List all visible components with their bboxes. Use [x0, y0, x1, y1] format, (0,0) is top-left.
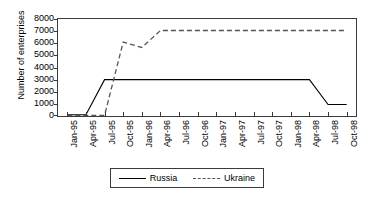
legend-swatch-dashed-line-icon — [193, 178, 220, 179]
y-tick-mark — [54, 43, 58, 44]
x-tick-label: Apr-97 — [238, 120, 247, 147]
y-tick-label: 1000 — [18, 98, 54, 107]
legend-item-ukraine[interactable]: Ukraine — [193, 173, 255, 183]
series-lines — [58, 19, 356, 116]
x-tick-label: Apr-98 — [312, 120, 321, 147]
x-tick-label: Oct-97 — [275, 120, 284, 147]
x-tick-label: Jul-95 — [108, 120, 117, 145]
x-tick-label: Jul-96 — [182, 120, 191, 145]
y-tick-mark — [54, 80, 58, 81]
x-tick-label: Jan-96 — [145, 120, 154, 148]
y-tick-label: 4000 — [18, 62, 54, 71]
x-tick-label: Apr-96 — [163, 120, 172, 147]
x-tick-label: Jul-97 — [257, 120, 266, 145]
y-tick-mark — [54, 104, 58, 105]
y-tick-mark — [54, 19, 58, 20]
x-tick-label: Jul-98 — [331, 120, 340, 145]
chart-legend: RussiaUkraine — [110, 168, 264, 188]
series-line-ukraine — [67, 31, 346, 116]
legend-label: Ukraine — [224, 173, 255, 183]
y-tick-label: 3000 — [18, 74, 54, 83]
legend-swatch-solid-line-icon — [119, 178, 146, 179]
x-axis-tick-labels: Jan-95Apr-95Jul-95Oct-95Jan-96Apr-96Jul-… — [57, 116, 357, 164]
y-tick-label: 0 — [18, 111, 54, 120]
y-tick-label: 8000 — [18, 14, 54, 23]
y-tick-mark — [54, 68, 58, 69]
legend-label: Russia — [150, 173, 178, 183]
y-tick-label: 2000 — [18, 86, 54, 95]
y-tick-mark — [54, 55, 58, 56]
legend-item-russia[interactable]: Russia — [119, 173, 178, 183]
plot-area — [57, 18, 357, 117]
x-tick-label: Jan-97 — [219, 120, 228, 148]
y-tick-mark — [54, 31, 58, 32]
x-tick-label: Oct-98 — [350, 120, 359, 147]
x-tick-label: Oct-96 — [201, 120, 210, 147]
x-tick-label: Jan-95 — [70, 120, 79, 148]
y-tick-label: 5000 — [18, 50, 54, 59]
y-axis-tick-labels: 010002000300040005000600070008000 — [18, 18, 54, 115]
y-tick-label: 7000 — [18, 26, 54, 35]
y-tick-label: 6000 — [18, 38, 54, 47]
x-tick-label: Oct-95 — [126, 120, 135, 147]
x-tick-label: Apr-95 — [89, 120, 98, 147]
x-tick-label: Jan-98 — [294, 120, 303, 148]
chart-figure: Number of enterprises 010002000300040005… — [0, 0, 374, 202]
y-tick-mark — [54, 92, 58, 93]
